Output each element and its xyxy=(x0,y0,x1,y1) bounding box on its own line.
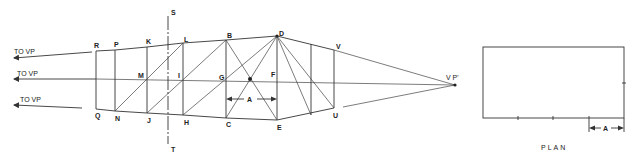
arrowhead-left-icon xyxy=(226,97,232,102)
arrowhead-right-icon xyxy=(271,97,277,102)
label-M: M xyxy=(138,72,144,79)
perspective-diagram: TO VP TO VP TO VP xyxy=(0,0,643,157)
bottom-edge-right xyxy=(277,108,334,120)
label-F: F xyxy=(271,71,276,78)
center-point-marker xyxy=(248,77,252,81)
label-H: H xyxy=(184,119,189,126)
label-G: G xyxy=(219,74,225,81)
label-J: J xyxy=(147,117,151,124)
perspective-outline xyxy=(96,36,455,120)
diagonal-H-D xyxy=(183,36,277,115)
to-vp-arrows: TO VP TO VP TO VP xyxy=(14,48,96,108)
to-vp-label-bottom: TO VP xyxy=(20,96,41,103)
label-D: D xyxy=(279,30,284,37)
label-Q: Q xyxy=(95,112,101,120)
dim-label-A: A xyxy=(247,96,252,103)
plan-rectangle xyxy=(483,47,624,118)
label-N: N xyxy=(115,115,120,122)
label-I: I xyxy=(178,72,180,79)
picture-plane: S T xyxy=(168,9,176,153)
top-to-vp2-line xyxy=(334,50,455,85)
diagonal-N-L xyxy=(115,43,183,111)
plan-arrowhead-left-icon xyxy=(589,126,595,131)
to-vp-label-middle: TO VP xyxy=(17,70,38,77)
diagonal-J-B xyxy=(147,40,226,113)
label-S: S xyxy=(171,9,176,16)
label-VP2: V P' xyxy=(446,74,459,81)
label-R: R xyxy=(94,42,99,49)
label-K: K xyxy=(146,38,151,45)
diagonal-C-D xyxy=(226,36,277,118)
measurement-a: A xyxy=(226,96,277,103)
plan-view: A PLAN xyxy=(483,47,626,151)
plan-dim-label-A: A xyxy=(603,125,608,132)
diagonal-lines xyxy=(115,36,334,120)
vp2-marker xyxy=(453,83,456,86)
label-C: C xyxy=(226,121,231,128)
plan-label: PLAN xyxy=(541,144,567,151)
arrow-to-vp-bottom xyxy=(14,105,82,108)
label-B: B xyxy=(227,32,232,39)
diagonal-D-U xyxy=(277,36,334,108)
label-P: P xyxy=(114,41,119,48)
to-vp-label-top: TO VP xyxy=(14,48,35,55)
top-edge-right xyxy=(277,36,334,50)
label-E: E xyxy=(277,124,282,131)
bottom-to-vp2-line xyxy=(343,85,455,107)
diagonal-D-inner xyxy=(277,36,311,115)
plan-arrowhead-right-icon xyxy=(618,126,624,131)
point-labels: R P K L B D V M I G F Q N J H C E U V P' xyxy=(94,30,459,131)
label-T: T xyxy=(171,146,176,153)
label-U: U xyxy=(333,112,338,119)
label-L: L xyxy=(184,36,189,43)
horizon-line xyxy=(96,79,455,85)
label-V: V xyxy=(336,43,341,50)
